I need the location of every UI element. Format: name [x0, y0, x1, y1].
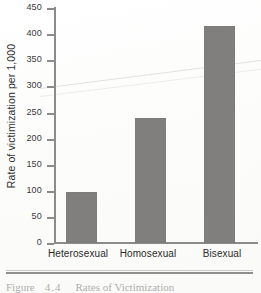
y-tick-mark-200 [47, 139, 54, 141]
y-tick-label-0: 0 [0, 237, 42, 247]
caption-prefix: Figure [6, 281, 35, 293]
figure-caption: Figure4.4Rates of Victimization [6, 281, 256, 293]
plot-area [54, 8, 258, 243]
x-axis-label-bisexual: Bisexual [192, 248, 252, 259]
y-tick-label-450: 450 [0, 2, 42, 12]
y-tick-label-300: 300 [0, 80, 42, 90]
y-tick-mark-150 [47, 165, 54, 167]
y-tick-label-400: 400 [0, 28, 42, 38]
caption-rule-hairline [6, 270, 253, 271]
figure-container: Rate of victimization per 1,000 450 400 … [0, 0, 261, 293]
y-tick-mark-50 [47, 217, 54, 219]
y-tick-mark-300 [47, 86, 54, 88]
y-tick-mark-350 [47, 60, 54, 62]
y-tick-label-250: 250 [0, 107, 42, 117]
y-tick-mark-250 [47, 113, 54, 115]
bar-heterosexual [66, 192, 97, 243]
y-tick-label-150: 150 [0, 159, 42, 169]
x-axis-label-homosexual: Homosexual [118, 248, 178, 259]
bar-homosexual [135, 118, 166, 243]
bar-bisexual [204, 26, 235, 243]
y-tick-label-350: 350 [0, 54, 42, 64]
y-tick-label-100: 100 [0, 185, 42, 195]
y-tick-mark-100 [47, 191, 54, 193]
y-tick-label-50: 50 [0, 211, 42, 221]
y-tick-label-200: 200 [0, 133, 42, 143]
caption-rule [6, 272, 253, 274]
x-axis-label-heterosexual: Heterosexual [48, 248, 108, 259]
y-tick-mark-400 [47, 34, 54, 36]
caption-title: Rates of Victimization [75, 281, 174, 293]
y-tick-mark-450 [47, 8, 54, 10]
y-tick-mark-0 [47, 243, 54, 245]
caption-number: 4.4 [45, 281, 62, 293]
